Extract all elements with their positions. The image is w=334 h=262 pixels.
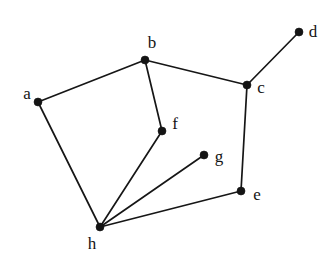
- graph-edge-a-b: [38, 60, 145, 102]
- vertex-label-b: b: [148, 34, 157, 51]
- vertex-label-a: a: [23, 85, 31, 102]
- vertex-label-h: h: [88, 235, 97, 252]
- graph-edge-a-h: [38, 102, 100, 227]
- graph-node-b[interactable]: [141, 56, 149, 64]
- graph-edge-c-e: [241, 85, 247, 191]
- graph-edge-c-d: [247, 32, 299, 85]
- vertex-label-f: f: [172, 115, 178, 132]
- graph-edge-g-h: [100, 155, 204, 227]
- graph-node-g[interactable]: [200, 151, 208, 159]
- graph-edge-e-h: [100, 191, 241, 227]
- graph-node-c[interactable]: [243, 81, 251, 89]
- vertex-label-c: c: [257, 79, 265, 96]
- vertex-label-g: g: [215, 148, 224, 165]
- graph-edge-f-h: [100, 131, 162, 227]
- graph-edge-b-f: [145, 60, 162, 131]
- graph-node-a[interactable]: [34, 98, 42, 106]
- graph-node-h[interactable]: [96, 223, 104, 231]
- graph-node-f[interactable]: [158, 127, 166, 135]
- node-layer: [34, 28, 303, 231]
- graph-edge-b-c: [145, 60, 247, 85]
- vertex-label-d: d: [309, 23, 318, 40]
- graph-canvas: [0, 0, 334, 262]
- graph-node-d[interactable]: [295, 28, 303, 36]
- graph-diagram: abcdefgh: [0, 0, 334, 262]
- graph-node-e[interactable]: [237, 187, 245, 195]
- vertex-label-e: e: [253, 186, 261, 203]
